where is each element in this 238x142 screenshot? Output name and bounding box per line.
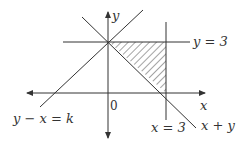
x-axis-label: x [200,99,207,112]
shaded-region [109,42,166,93]
line-x-plus-y [82,17,196,128]
diagram: y x 0 y = 3 x = 3 x + y y − x = k [0,0,238,142]
y-axis-label: y [112,9,119,22]
line-y3-label: y = 3 [193,35,228,48]
line-yxk-label: y − x = k [13,112,74,125]
line-xy-label: x + y [201,119,235,132]
origin-label: 0 [110,100,118,112]
line-x3-label: x = 3 [151,121,186,134]
